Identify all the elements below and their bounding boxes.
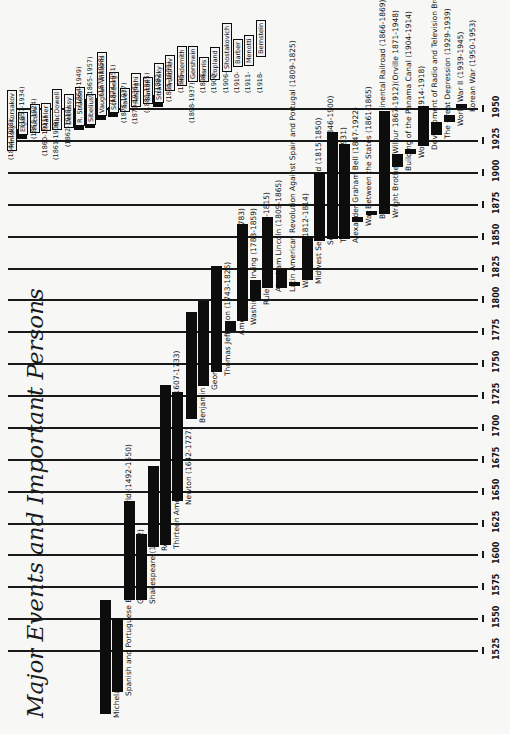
composer-years: (1875-1937) (120, 82, 128, 123)
event-bar (302, 236, 313, 281)
tick-label: 1725 (492, 383, 501, 405)
gridline (8, 491, 478, 493)
tick-mark (482, 360, 484, 367)
tick-label: 1825 (492, 255, 501, 277)
composer-years: (1864-1949) (75, 67, 83, 108)
composer-years: (1898-1937) (188, 82, 196, 123)
tick-mark (482, 137, 484, 144)
event-label: War Between the States (1861-1865) (364, 86, 373, 226)
tick-mark (482, 105, 484, 112)
tick-mark (482, 583, 484, 590)
composer-years: (1874-1951) (109, 64, 117, 105)
composer-years: (1891-1953) (165, 62, 173, 103)
gridline (8, 586, 478, 588)
tick-label: 1550 (492, 606, 501, 628)
tick-mark (482, 551, 484, 558)
composer-years: (1860-1911) (41, 115, 49, 156)
gridline (8, 618, 478, 620)
gridline (8, 554, 478, 556)
tick-label: 1525 (492, 638, 501, 660)
tick-mark (482, 233, 484, 240)
composer-years: (1895- (177, 72, 185, 93)
tick-mark (482, 615, 484, 622)
event-bar (431, 122, 442, 135)
composer-years: (1861-1908) (52, 119, 60, 160)
event-bar (352, 217, 363, 222)
tick-mark (482, 488, 484, 495)
event-label: Latin American Revolution Against Spain … (288, 40, 297, 292)
tick-label: 1875 (492, 191, 501, 213)
timeline-chart: Major Events and Important Persons 15251… (0, 0, 510, 734)
tick-label: 1900 (492, 160, 501, 182)
event-bar (379, 111, 390, 214)
composer-name: Shostakovich (222, 23, 232, 72)
event-bar (237, 224, 248, 321)
event-bar (225, 321, 236, 331)
gridline (8, 204, 478, 206)
event-label: Korean War (1950-1953) (468, 20, 477, 112)
event-bar (276, 268, 287, 288)
event-bar (327, 132, 338, 239)
event-label: Thomas Jefferson (1743-1826) (223, 262, 232, 376)
tick-mark (482, 647, 484, 654)
tick-label: 1775 (492, 319, 501, 341)
event-bar (100, 600, 111, 713)
tick-mark (482, 201, 484, 208)
tick-mark (482, 456, 484, 463)
event-bar (211, 266, 222, 372)
tick-mark (482, 424, 484, 431)
event-bar (314, 172, 325, 241)
event-bar (262, 217, 273, 288)
composer-years: (1898- (199, 72, 207, 93)
composer-years: (1844-1908) (7, 119, 15, 160)
event-bar (160, 385, 171, 546)
event-label: World War II (1939-1945) (456, 32, 465, 126)
event-label: Alexander Graham Bell (1847-1922) (351, 108, 360, 244)
composer-years: (1900- (210, 72, 218, 93)
event-bar (444, 115, 455, 123)
composer-years: (1872-1958) (97, 55, 105, 96)
event-bar (112, 618, 123, 692)
gridline (8, 395, 478, 397)
gridline (8, 523, 478, 525)
tick-mark (482, 520, 484, 527)
tick-mark (482, 296, 484, 303)
event-bar (405, 149, 416, 154)
composer-name: Barber (233, 39, 243, 67)
composer-years: (1857-1934) (18, 86, 26, 127)
composer-name: Gershwin (188, 46, 198, 82)
composer-name: Bernstein (256, 20, 266, 57)
event-bar (136, 534, 147, 600)
event-label: Wright Brothers (Wilbur 1867-1912)(Orvil… (391, 10, 400, 218)
tick-label: 1650 (492, 478, 501, 500)
event-bar (172, 392, 183, 500)
tick-label: 1800 (492, 287, 501, 309)
event-bar (289, 282, 300, 286)
event-bar (186, 312, 197, 419)
tick-mark (482, 169, 484, 176)
composer-years: (1865-1957) (86, 57, 94, 98)
event-bar (124, 501, 135, 600)
composer-years: (1862-1918) (64, 106, 72, 147)
event-bar (198, 301, 209, 386)
chart-title: Major Events and Important Persons (22, 288, 48, 718)
tick-label: 1750 (492, 351, 501, 373)
tick-label: 1925 (492, 128, 501, 150)
composer-name: Sibelius (86, 93, 96, 124)
composer-years: (1918- (256, 72, 264, 93)
event-bar (392, 154, 403, 167)
composer-years: (1879-1936) (131, 83, 139, 124)
event-bar (456, 104, 467, 108)
event-bar (339, 144, 350, 240)
composer-years: (1858-1924) (30, 99, 38, 140)
tick-label: 1600 (492, 542, 501, 564)
event-bar (366, 211, 377, 215)
composer-years: (1910- (233, 72, 241, 93)
tick-label: 1950 (492, 96, 501, 118)
tick-label: 1575 (492, 574, 501, 596)
composer-years: (1906- (222, 72, 230, 93)
event-bar (418, 106, 429, 147)
event-bar (148, 466, 159, 546)
composer-years: (1911- (244, 72, 252, 93)
composer-years: (1882- (154, 72, 162, 93)
